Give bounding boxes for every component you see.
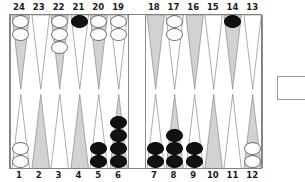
white-checker[interactable] [12, 28, 29, 41]
point-label-19: 19 [108, 1, 128, 14]
point-label-6: 6 [108, 169, 128, 182]
checker-stack-8[interactable] [165, 129, 184, 168]
point-label-17: 17 [164, 1, 184, 14]
point-triangle-2 [31, 92, 51, 169]
point-6[interactable] [109, 92, 129, 169]
point-16[interactable] [185, 15, 204, 92]
point-label-7: 7 [144, 169, 164, 182]
checker-stack-6[interactable] [109, 116, 129, 168]
checker-stack-14[interactable] [223, 15, 242, 28]
backgammon-board [9, 14, 262, 169]
black-checker[interactable] [90, 155, 107, 168]
point-14[interactable] [223, 15, 242, 92]
point-3[interactable] [50, 92, 70, 169]
point-23[interactable] [31, 15, 51, 92]
board-bar[interactable] [129, 15, 145, 168]
quadrant-top-right [146, 15, 262, 92]
board-half-right [145, 15, 263, 168]
white-checker[interactable] [51, 15, 68, 28]
point-label-14: 14 [223, 1, 243, 14]
point-label-11: 11 [223, 169, 243, 182]
bear-off-tray[interactable] [277, 76, 305, 100]
point-triangle-16 [185, 15, 204, 92]
point-label-9: 9 [183, 169, 203, 182]
white-checker[interactable] [166, 28, 183, 41]
point-triangle-11 [223, 92, 242, 169]
point-20[interactable] [89, 15, 109, 92]
point-label-20: 20 [88, 1, 108, 14]
point-label-18: 18 [144, 1, 164, 14]
black-checker[interactable] [166, 129, 183, 142]
top-point-labels: 24 23 22 21 20 19 18 17 16 15 14 13 [9, 1, 262, 14]
point-7[interactable] [146, 92, 165, 169]
point-19[interactable] [109, 15, 129, 92]
black-checker[interactable] [110, 129, 127, 142]
point-5[interactable] [89, 92, 109, 169]
point-9[interactable] [185, 92, 204, 169]
point-21[interactable] [70, 15, 90, 92]
point-17[interactable] [165, 15, 184, 92]
point-label-8: 8 [164, 169, 184, 182]
black-checker[interactable] [224, 15, 241, 28]
white-checker[interactable] [110, 28, 127, 41]
point-15[interactable] [204, 15, 223, 92]
white-checker[interactable] [51, 28, 68, 41]
white-checker[interactable] [90, 15, 107, 28]
white-checker[interactable] [244, 142, 261, 155]
black-checker[interactable] [147, 142, 164, 155]
black-checker[interactable] [186, 155, 203, 168]
checker-stack-19[interactable] [109, 15, 129, 41]
white-checker[interactable] [12, 15, 29, 28]
point-label-15: 15 [203, 1, 223, 14]
point-12[interactable] [243, 92, 262, 169]
point-11[interactable] [223, 92, 242, 169]
black-checker[interactable] [110, 142, 127, 155]
backgammon-screenshot: 24 23 22 21 20 19 18 17 16 15 14 13 [0, 0, 305, 182]
point-label-3: 3 [49, 169, 69, 182]
black-checker[interactable] [110, 116, 127, 129]
black-checker[interactable] [166, 155, 183, 168]
black-checker[interactable] [110, 155, 127, 168]
board-right-edge [268, 0, 270, 182]
point-label-16: 16 [183, 1, 203, 14]
checker-stack-5[interactable] [89, 142, 109, 168]
white-checker[interactable] [110, 15, 127, 28]
checker-stack-20[interactable] [89, 15, 109, 41]
point-triangle-4 [70, 92, 90, 169]
checker-stack-12[interactable] [243, 142, 262, 168]
point-24[interactable] [11, 15, 31, 92]
checker-stack-7[interactable] [146, 142, 165, 168]
black-checker[interactable] [147, 155, 164, 168]
white-checker[interactable] [12, 142, 29, 155]
black-checker[interactable] [166, 142, 183, 155]
checker-stack-22[interactable] [50, 15, 70, 54]
white-checker[interactable] [90, 28, 107, 41]
checker-stack-21[interactable] [70, 15, 90, 28]
checker-stack-9[interactable] [185, 142, 204, 168]
checker-stack-1[interactable] [11, 142, 31, 168]
point-label-5: 5 [88, 169, 108, 182]
point-triangle-13 [243, 15, 262, 92]
white-checker[interactable] [244, 155, 261, 168]
quadrant-bottom-right [146, 92, 262, 169]
point-1[interactable] [11, 92, 31, 169]
point-8[interactable] [165, 92, 184, 169]
white-checker[interactable] [51, 41, 68, 54]
white-checker[interactable] [166, 15, 183, 28]
point-22[interactable] [50, 15, 70, 92]
point-triangle-15 [204, 15, 223, 92]
point-18[interactable] [146, 15, 165, 92]
point-triangle-18 [146, 15, 165, 92]
black-checker[interactable] [90, 142, 107, 155]
black-checker[interactable] [186, 142, 203, 155]
checker-stack-24[interactable] [11, 15, 31, 41]
point-2[interactable] [31, 92, 51, 169]
point-13[interactable] [243, 15, 262, 92]
point-triangle-3 [50, 92, 70, 169]
black-checker[interactable] [71, 15, 88, 28]
checker-stack-17[interactable] [165, 15, 184, 41]
point-label-13: 13 [242, 1, 262, 14]
point-10[interactable] [204, 92, 223, 169]
point-4[interactable] [70, 92, 90, 169]
white-checker[interactable] [12, 155, 29, 168]
